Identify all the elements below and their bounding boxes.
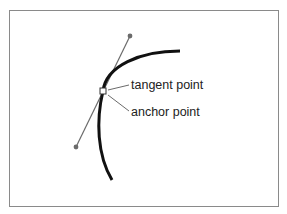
tangent-leader-line (108, 85, 129, 90)
anchor-point-label: anchor point (131, 106, 200, 119)
handle-top-dot-icon (128, 34, 133, 39)
handle-bottom-dot-icon (74, 145, 79, 150)
anchor-point-square-icon (100, 88, 106, 94)
tangent-point-label: tangent point (131, 79, 203, 92)
anchor-leader-line (108, 95, 129, 111)
